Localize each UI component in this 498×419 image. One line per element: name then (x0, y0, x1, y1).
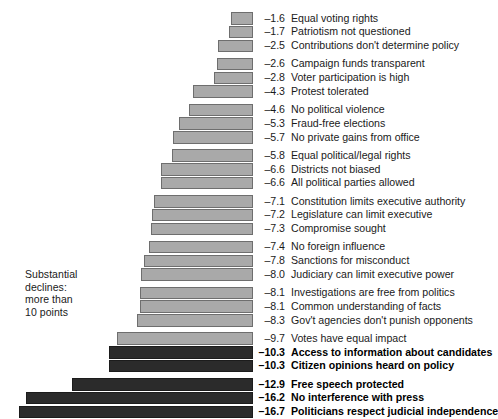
bar (189, 104, 253, 117)
bar-category-label: Constitution limits executive authority (291, 195, 465, 208)
bar-category-label: Politicians respect judicial independenc… (291, 405, 498, 418)
bar-value-label: –10.3 (255, 346, 285, 359)
bar (172, 149, 253, 162)
bar-row: –7.2Legislature can limit executive (0, 209, 485, 222)
bar-value-label: –10.3 (255, 359, 285, 372)
bar (161, 163, 253, 176)
bar-category-label: Access to information about candidates (291, 346, 492, 359)
bar-row: –7.1Constitution limits executive author… (0, 195, 485, 208)
bar-value-label: –2.6 (255, 57, 285, 70)
bar (72, 378, 253, 391)
bar-value-label: –4.6 (255, 103, 285, 116)
bar-category-label: Protest tolerated (291, 85, 369, 98)
bar-row: –2.5Contributions don't determine policy (0, 40, 485, 53)
bar (154, 195, 253, 208)
bar-value-label: –8.3 (255, 314, 285, 327)
bar-row: –6.6Districts not biased (0, 163, 485, 176)
bar-category-label: Fraud-free elections (291, 117, 385, 130)
bar-category-label: Gov't agencies don't punish opponents (291, 314, 473, 327)
bar (140, 287, 253, 300)
bar-row: –10.3Access to information about candida… (0, 346, 485, 359)
bar-value-label: –5.3 (255, 117, 285, 130)
bar-row: –2.6Campaign funds transparent (0, 58, 485, 71)
bar-category-label: No private gains from office (291, 131, 420, 144)
bar-category-label: All political parties allowed (291, 176, 415, 189)
bar (151, 223, 253, 236)
bar-value-label: –1.7 (255, 25, 285, 38)
bar-category-label: Patriotism not questioned (291, 25, 411, 38)
bar (109, 346, 253, 359)
bar-row: –12.9Free speech protected (0, 378, 485, 391)
bar-value-label: –7.1 (255, 195, 285, 208)
bar-value-label: –5.8 (255, 149, 285, 162)
bar-row: –6.6All political parties allowed (0, 177, 485, 190)
bar-row: –8.3Gov't agencies don't punish opponent… (0, 314, 485, 327)
bar-value-label: –7.8 (255, 254, 285, 267)
bar-category-label: Equal voting rights (291, 12, 378, 25)
bar-row: –16.2No interference with press (0, 392, 485, 405)
bar-row: –16.7Politicians respect judicial indepe… (0, 406, 485, 419)
bar-value-label: –4.3 (255, 85, 285, 98)
bar (214, 72, 253, 85)
bar (141, 268, 253, 281)
bar-category-label: Investigations are free from politics (291, 286, 455, 299)
bar (149, 241, 253, 254)
bar (109, 360, 253, 373)
bar-category-label: Voter participation is high (291, 71, 409, 84)
bar-value-label: –2.5 (255, 39, 285, 52)
bar-category-label: No political violence (291, 103, 385, 116)
bar-value-label: –16.2 (255, 391, 285, 404)
bar (140, 300, 253, 313)
bar-category-label: No interference with press (291, 391, 424, 404)
bar-value-label: –12.9 (255, 378, 285, 391)
bar (144, 255, 253, 268)
bar-row: –7.8Sanctions for misconduct (0, 255, 485, 268)
bar-category-label: Votes have equal impact (291, 332, 406, 345)
bar-row: –7.4No foreign influence (0, 241, 485, 254)
bar (117, 332, 253, 345)
bar (193, 85, 253, 98)
bar-value-label: –6.6 (255, 176, 285, 189)
bar-row: –7.3Compromise sought (0, 223, 485, 236)
bar-category-label: Common understanding of facts (291, 300, 441, 313)
bar-category-label: Contributions don't determine policy (291, 39, 459, 52)
bar-row: –2.8Voter participation is high (0, 72, 485, 85)
bar-row: –8.1Common understanding of facts (0, 300, 485, 313)
bar-row: –5.7No private gains from office (0, 131, 485, 144)
bar-category-label: Campaign funds transparent (291, 57, 425, 70)
bar-value-label: –9.7 (255, 332, 285, 345)
bar-value-label: –16.7 (255, 405, 285, 418)
bar (179, 117, 253, 130)
bar (137, 314, 253, 327)
bar-value-label: –2.8 (255, 71, 285, 84)
bar-row: –9.7Votes have equal impact (0, 332, 485, 345)
bar (26, 392, 253, 405)
bar-rows-container: –1.6Equal voting rights–1.7Patriotism no… (0, 12, 485, 419)
bar (218, 40, 253, 53)
bar-row: –4.6No political violence (0, 104, 485, 117)
bar-value-label: –7.4 (255, 240, 285, 253)
bar-category-label: Compromise sought (291, 222, 386, 235)
bar-value-label: –1.6 (255, 12, 285, 25)
bar-category-label: Judiciary can limit executive power (291, 268, 454, 281)
bar-row: –8.1Investigations are free from politic… (0, 287, 485, 300)
bar (217, 58, 253, 71)
bar-category-label: Citizen opinions heard on policy (291, 359, 454, 372)
bar-category-label: Legislature can limit executive (291, 208, 432, 221)
bar-category-label: Sanctions for misconduct (291, 254, 409, 267)
bar-row: –5.8Equal political/legal rights (0, 149, 485, 162)
bar-category-label: Equal political/legal rights (291, 149, 411, 162)
bar-category-label: Free speech protected (291, 378, 404, 391)
bar-value-label: –7.2 (255, 208, 285, 221)
bar-value-label: –5.7 (255, 131, 285, 144)
bar (152, 209, 253, 222)
bar-row: –8.0Judiciary can limit executive power (0, 268, 485, 281)
bar-value-label: –8.1 (255, 286, 285, 299)
bar-category-label: No foreign influence (291, 240, 385, 253)
bar (19, 406, 253, 419)
bar (231, 12, 253, 25)
bar-value-label: –7.3 (255, 222, 285, 235)
bar-value-label: –8.1 (255, 300, 285, 313)
bar-row: –4.3Protest tolerated (0, 85, 485, 98)
